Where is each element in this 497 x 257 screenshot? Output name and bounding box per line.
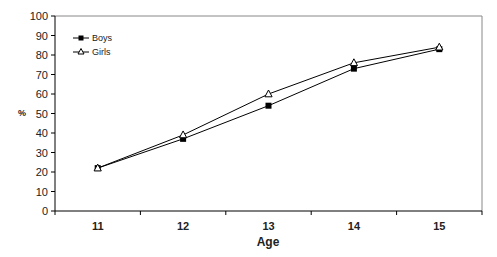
legend-item-boys: Boys xyxy=(73,33,113,43)
y-tick-label: 0 xyxy=(42,205,48,217)
x-tick-label: 15 xyxy=(433,220,445,232)
x-axis: 1112131415 xyxy=(55,211,482,232)
y-axis-title: % xyxy=(18,108,26,118)
open-triangle-marker-icon xyxy=(78,49,84,55)
x-tick-label: 12 xyxy=(177,220,189,232)
y-tick-label: 60 xyxy=(36,88,48,100)
x-tick-label: 11 xyxy=(92,220,104,232)
y-tick-label: 100 xyxy=(30,10,48,22)
x-tick-label: 13 xyxy=(262,220,274,232)
line-chart: 0102030405060708090100 1112131415 % Age … xyxy=(0,0,497,257)
legend: Boys Girls xyxy=(73,33,113,57)
filled-square-marker-icon xyxy=(79,36,84,41)
legend-label-girls: Girls xyxy=(92,47,111,57)
y-tick-label: 20 xyxy=(36,166,48,178)
legend-item-girls: Girls xyxy=(73,47,111,57)
y-tick-label: 90 xyxy=(36,30,48,42)
y-tick-label: 80 xyxy=(36,49,48,61)
series-layer xyxy=(94,43,443,171)
plot-frame xyxy=(55,16,482,211)
data-point-boys xyxy=(266,103,272,109)
data-point-boys xyxy=(351,66,357,72)
x-tick-label: 14 xyxy=(348,220,361,232)
data-point-girls xyxy=(180,131,187,138)
legend-label-boys: Boys xyxy=(92,33,113,43)
y-tick-label: 50 xyxy=(36,108,48,120)
y-tick-label: 70 xyxy=(36,69,48,81)
x-axis-title: Age xyxy=(257,235,280,249)
y-tick-label: 40 xyxy=(36,127,48,139)
y-tick-label: 30 xyxy=(36,147,48,159)
y-axis: 0102030405060708090100 xyxy=(30,10,55,217)
y-tick-label: 10 xyxy=(36,186,48,198)
